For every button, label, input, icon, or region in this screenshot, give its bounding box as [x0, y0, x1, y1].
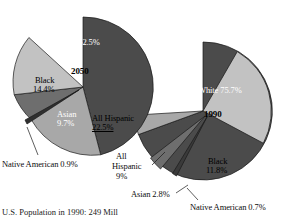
label-1990-hispanic-line3: 9% — [116, 172, 127, 182]
label-2050-hispanic-line2: 22.5% — [92, 123, 113, 133]
figure-caption: U.S. Population in 1990: 249 Mill — [2, 207, 118, 217]
label-2050-asian-line2: 9.7% — [57, 119, 74, 129]
label-2050-white: White 52.5% — [56, 38, 100, 48]
label-1990-native: Native American 0.7% — [190, 203, 266, 213]
leader-2050-native — [27, 127, 38, 155]
pie-charts-svg — [0, 0, 290, 217]
label-2050-year: 2050 — [71, 67, 89, 77]
label-1990-black-line2: 11.8% — [206, 166, 227, 176]
leader-1990-native — [187, 188, 198, 200]
label-2050-black-line2: 14.4% — [33, 85, 54, 95]
pie-1990 — [135, 42, 290, 200]
label-1990-year: 1990 — [204, 110, 222, 120]
pie-chart-figure: White 52.5% 2050 Black 14.4% Asian 9.7% … — [0, 0, 290, 217]
leader-1990-asian — [176, 185, 188, 193]
label-2050-native: Native American 0.9% — [2, 160, 78, 170]
label-1990-white: White 75.7% — [198, 86, 242, 96]
label-1990-asian: Asian 2.8% — [131, 190, 170, 200]
